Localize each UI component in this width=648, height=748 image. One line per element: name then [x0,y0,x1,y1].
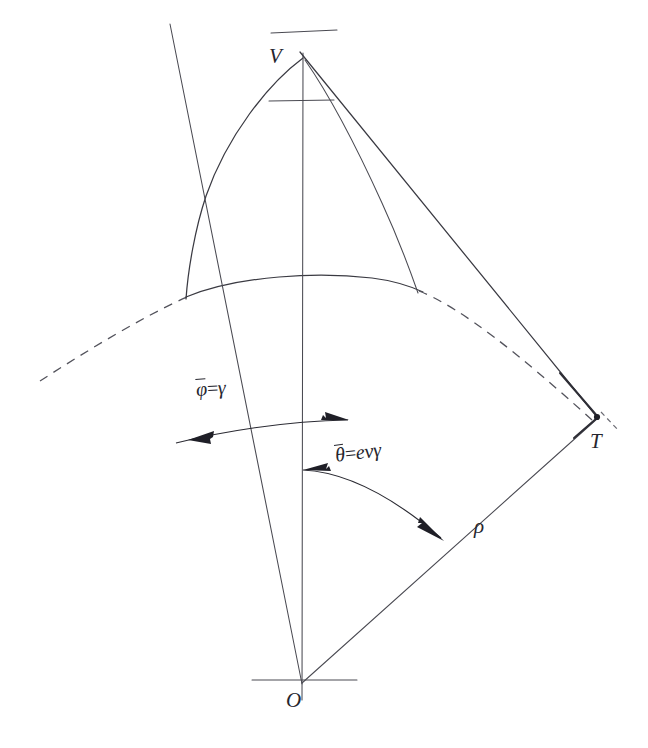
cross-mark-at-V [271,30,337,33]
arc-surface-dashed-left [40,297,187,381]
phi-symbol-overbar: φ [195,376,208,401]
angle-label-phi-bar-equals-gamma: φ=γ [195,375,226,401]
angle-arc-phi-arrowhead-right [321,412,349,420]
tick-horizontal-at-V [269,100,334,101]
ray-O-to-upper-left [170,24,302,684]
arc-surface-solid [186,275,423,297]
stub-dashed-at-T [601,412,619,431]
phi-value-gamma: γ [217,376,226,398]
figure-canvas: V T O ρ φ=γ θ=eνγ [0,0,648,748]
vertex-dot-T [594,414,600,420]
chord-emphasis-near-T [560,373,598,417]
curve-V-left-trajectory [186,58,303,299]
theta-value-e-nu-gamma: eνγ [354,438,382,463]
radius-label-rho: ρ [474,514,484,539]
point-label-T: T [590,429,602,454]
axis-vertical [302,53,303,700]
point-label-V: V [269,44,282,69]
angle-arc-theta-arrowhead-right [417,517,444,541]
angle-arc-theta-arrowhead-left [303,463,331,471]
point-label-O: O [286,688,301,713]
arc-surface-dashed-right [419,291,592,420]
chord-V-to-T [300,52,597,417]
angle-arc-phi-arrowhead-left [188,431,214,444]
geometry-diagram-svg [0,0,648,748]
